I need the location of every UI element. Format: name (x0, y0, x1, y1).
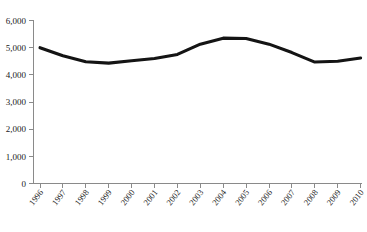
x-tick-label: 2009 (324, 188, 342, 208)
x-tick-label: 2006 (256, 188, 274, 208)
x-tick-label: 2004 (210, 187, 229, 207)
y-tick-label: 2,000 (6, 124, 27, 134)
x-tick-label: 1998 (73, 188, 91, 208)
y-tick-label: 3,000 (6, 97, 27, 107)
x-tick-label: 2008 (302, 188, 320, 208)
x-tick-label: 2003 (187, 188, 205, 208)
x-tick-label: 2010 (347, 188, 365, 208)
x-tick-label: 1996 (27, 188, 45, 208)
series-line (40, 38, 361, 63)
chart-canvas: 01,0002,0003,0004,0005,0006,000 19961997… (0, 0, 367, 232)
y-tick-label: 1,000 (6, 152, 27, 162)
y-tick-label: 6,000 (6, 16, 27, 26)
x-tick-label: 2000 (118, 188, 136, 208)
x-tick-label: 1999 (95, 188, 113, 208)
x-tick-label: 1997 (50, 188, 68, 208)
x-tick-label: 2002 (164, 188, 182, 208)
y-tick-label: 0 (22, 179, 27, 189)
line-chart: 01,0002,0003,0004,0005,0006,000 19961997… (0, 0, 367, 232)
x-axis: 1996199719981999200020012002200320042005… (27, 184, 366, 208)
y-axis: 01,0002,0003,0004,0005,0006,000 (6, 16, 34, 189)
x-tick-label: 2001 (141, 188, 159, 208)
y-tick-label: 4,000 (6, 70, 27, 80)
x-tick-label: 2005 (233, 188, 251, 208)
y-tick-label: 5,000 (6, 43, 27, 53)
data-series (40, 38, 361, 63)
x-tick-label: 2007 (279, 188, 297, 208)
